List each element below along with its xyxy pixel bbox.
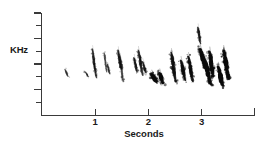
y-minor-tick-3: [36, 76, 41, 77]
y-tick-2: [34, 89, 41, 90]
x-tick-label-2: 2: [139, 117, 159, 127]
y-minor-tick-7: [36, 25, 41, 26]
y-tick-8: [34, 12, 41, 13]
y-tick-4: [34, 63, 41, 64]
x-tick-label-1: 1: [85, 117, 105, 127]
y-minor-tick-5: [36, 51, 41, 52]
spectrogram-figure: 2468 KHz 123 Seconds: [0, 0, 264, 150]
x-tick-label-3: 3: [192, 117, 212, 127]
spectrogram-trace: [42, 13, 255, 115]
x-axis-title: Seconds: [0, 128, 264, 139]
y-minor-tick-1: [36, 102, 41, 103]
y-axis-title: KHz: [10, 44, 28, 55]
plot-area: [42, 13, 255, 115]
y-tick-6: [34, 38, 41, 39]
